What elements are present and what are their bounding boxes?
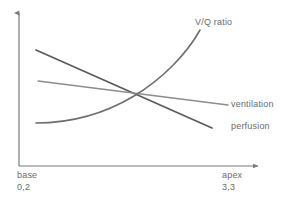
vq-ratio-figure: V/Q ratio ventilation perfusion base 0,2… [0,0,283,204]
x-axis-value-apex: 3,3 [222,182,235,193]
series-label-perfusion: perfusion [231,121,270,132]
series-label-ventilation: ventilation [231,99,274,110]
series-line-perfusion [36,50,212,128]
x-axis-label-base: base [17,170,37,181]
series-label-vq-ratio: V/Q ratio [195,17,232,28]
x-axis-label-apex: apex [222,170,242,181]
x-axis-value-base: 0,2 [17,182,30,193]
series-curve-vq-ratio [36,30,200,123]
series-line-ventilation [38,81,228,105]
